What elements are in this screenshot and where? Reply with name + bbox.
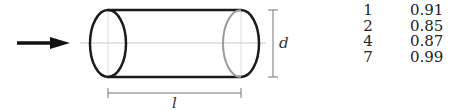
length-label: l bbox=[172, 94, 177, 110]
diameter-dimension bbox=[268, 10, 278, 77]
table-cell-index: 7 bbox=[340, 50, 396, 66]
flow-arrow-icon bbox=[17, 37, 70, 49]
table-row: 2 0.85 bbox=[340, 19, 468, 35]
diameter-label: d bbox=[279, 34, 289, 52]
table-cell-value: 0.99 bbox=[396, 50, 468, 66]
value-table: 1 0.91 2 0.85 4 0.87 7 0.99 bbox=[340, 3, 468, 65]
table-row: 7 0.99 bbox=[340, 50, 468, 66]
table-row: 4 0.87 bbox=[340, 34, 468, 50]
table-row: 1 0.91 bbox=[340, 3, 468, 19]
cylinder-diagram: d l bbox=[0, 0, 330, 110]
